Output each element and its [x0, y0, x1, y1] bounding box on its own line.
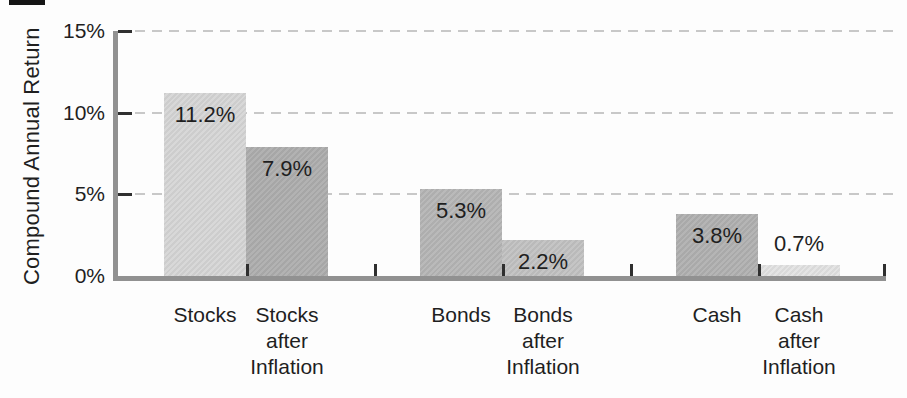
y-axis-tick-label-5%: 5% [37, 181, 105, 207]
x-axis-tick [630, 264, 633, 276]
x-axis-label-stocks-after-inflation: Stocks after Inflation [217, 302, 357, 380]
bar-value-label-stocks: 11.2% [145, 102, 265, 128]
y-axis-tick-15% [118, 30, 132, 33]
y-axis-title: Compound Annual Return [19, 35, 45, 285]
x-axis-label-cash-after-inflation: Cash after Inflation [729, 302, 869, 380]
y-axis-tick-label-0%: 0% [37, 263, 105, 289]
x-axis-tick [883, 264, 886, 276]
y-axis-tick-10% [118, 112, 132, 115]
plot-area: 11.2%7.9%5.3%2.2%3.8%0.7% [113, 31, 886, 281]
gridline-15% [118, 30, 896, 32]
y-axis-tick-label-10%: 10% [37, 100, 105, 126]
x-axis-label-bonds-after-inflation: Bonds after Inflation [473, 302, 613, 380]
x-axis-tick [374, 264, 377, 276]
y-axis-tick-5% [118, 193, 132, 196]
bar-value-label-bonds: 5.3% [401, 198, 521, 224]
y-axis-tick-label-15%: 15% [37, 18, 105, 44]
x-axis-tick [246, 264, 249, 276]
bar-value-label-stocks-after-inflation: 7.9% [227, 156, 347, 182]
scan-artifact-mark [9, 0, 45, 5]
chart-figure: Compound Annual Return 11.2%7.9%5.3%2.2%… [0, 0, 907, 398]
x-axis-tick [758, 264, 761, 276]
bar-value-label-cash-after-inflation: 0.7% [739, 231, 859, 257]
bar-cash-after-inflation [758, 265, 840, 276]
bar-value-label-bonds-after-inflation: 2.2% [483, 249, 603, 275]
